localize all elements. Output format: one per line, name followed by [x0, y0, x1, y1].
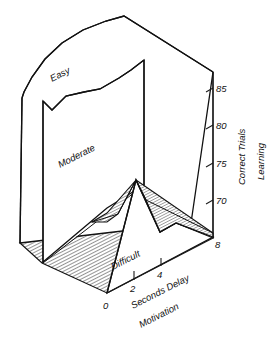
three-d-surface-chart: Easy Moderate [0, 0, 276, 340]
depth-tick-label-2: 2 [129, 283, 136, 294]
vertical-tick-label-80: 80 [216, 120, 227, 131]
depth-tick-label-4: 4 [157, 269, 162, 280]
vertical-tick-70: 70 [206, 195, 227, 206]
depth-tick-label-0: 0 [103, 300, 109, 311]
depth-tick-8: 8 [215, 239, 221, 250]
vertical-tick-label-70: 70 [216, 195, 227, 206]
vertical-tick-label-75: 75 [216, 158, 227, 169]
vertical-axis-title-correct-trials: Correct Trials [236, 128, 247, 185]
depth-tick-label-8: 8 [215, 239, 221, 250]
vertical-axis-title-learning: Learning [255, 142, 266, 180]
vertical-tick-label-85: 85 [216, 83, 227, 94]
depth-tick-0: 0 [103, 300, 109, 311]
vertical-axis: 85 80 75 70 Correct Trials Learning [206, 72, 266, 238]
vertical-tick-75: 75 [206, 158, 227, 169]
chart-canvas: Easy Moderate [0, 0, 276, 340]
vertical-tick-80: 80 [206, 120, 227, 131]
